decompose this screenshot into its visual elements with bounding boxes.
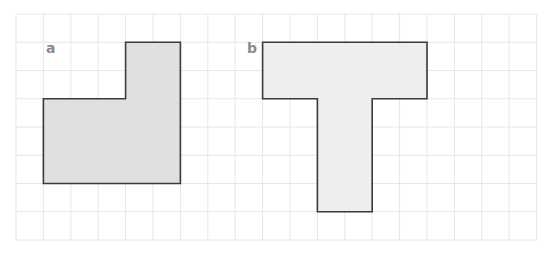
shape-a-label: a (46, 41, 55, 55)
shape-a-l-shape (43, 42, 180, 183)
grid-canvas (0, 0, 547, 253)
shape-b-label: b (247, 41, 257, 55)
